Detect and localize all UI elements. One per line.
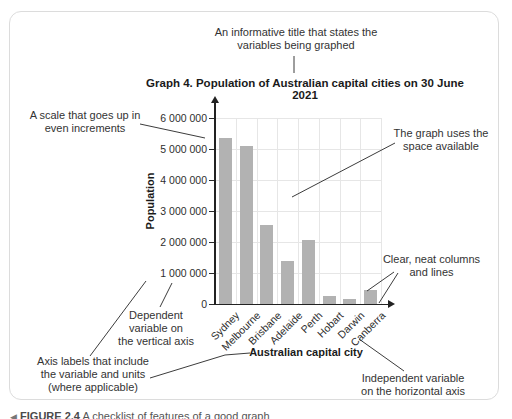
bar-melbourne xyxy=(240,146,253,304)
annotation-line: on the horizontal axis xyxy=(348,385,478,398)
caption-label: FIGURE 2.4 xyxy=(20,410,80,419)
annotation-line: and lines xyxy=(369,266,494,279)
annotation-space: The graph uses the space available xyxy=(371,127,511,153)
y-tick-label: 3 000 000 xyxy=(142,205,207,217)
y-tick-label: 4 000 000 xyxy=(142,174,207,186)
y-tick-label: 2 000 000 xyxy=(142,236,207,248)
y-tick-label: 1 000 000 xyxy=(142,267,207,279)
bar-brisbane xyxy=(260,225,273,304)
annotation-line: A scale that goes up in xyxy=(15,109,155,122)
annotation-line: Independent variable xyxy=(348,372,478,385)
annotation-scale: A scale that goes up in even increments xyxy=(15,109,155,135)
y-tick-label: 5 000 000 xyxy=(142,143,207,155)
annotation-line: Dependent xyxy=(96,309,216,322)
gridline-vertical xyxy=(319,118,320,304)
y-axis-arrow-icon xyxy=(211,96,219,103)
figure-caption: ◀ FIGURE 2.4 A checklist of features of … xyxy=(10,410,490,419)
y-axis-line xyxy=(214,102,216,305)
caption-text: A checklist of features of a good graph xyxy=(82,410,269,419)
chart-title: Graph 4. Population of Australian capita… xyxy=(140,77,470,101)
gridline-vertical xyxy=(340,118,341,304)
annotation-line: the variable and units xyxy=(23,368,163,381)
bar-adelaide xyxy=(281,261,294,304)
gridline-vertical xyxy=(257,118,258,304)
annotation-informative-title: An informative title that states the var… xyxy=(196,26,396,52)
annotation-line: variable on xyxy=(96,322,216,335)
y-tick-label: 0 xyxy=(142,298,207,310)
annotation-line: space available xyxy=(371,140,511,153)
annotation-line: Axis labels that include xyxy=(23,355,163,368)
x-axis-arrow-icon xyxy=(388,300,395,308)
caption-arrow-icon: ◀ xyxy=(10,412,17,419)
bar-sydney xyxy=(219,138,232,304)
annotation-columns: Clear, neat columns and lines xyxy=(369,253,494,279)
annotation-line: An informative title that states the xyxy=(196,26,396,39)
y-tick-label: 6 000 000 xyxy=(142,112,207,124)
bar-perth xyxy=(302,240,315,304)
annotation-line: even increments xyxy=(15,122,155,135)
gridline-vertical xyxy=(277,118,278,304)
gridline-vertical xyxy=(298,118,299,304)
gridline-vertical xyxy=(360,118,361,304)
annotation-axis-labels: Axis labels that include the variable an… xyxy=(23,355,163,394)
x-axis-line xyxy=(214,304,388,306)
annotation-line: The graph uses the xyxy=(371,127,511,140)
annotation-line: Clear, neat columns xyxy=(369,253,494,266)
annotation-line: (where applicable) xyxy=(23,381,163,394)
gridline-vertical xyxy=(236,118,237,304)
bar-canberra xyxy=(364,290,377,304)
gridline-vertical xyxy=(381,118,382,304)
annotation-independent-variable: Independent variable on the horizontal a… xyxy=(348,372,478,398)
annotation-line: variables being graphed xyxy=(196,39,396,52)
